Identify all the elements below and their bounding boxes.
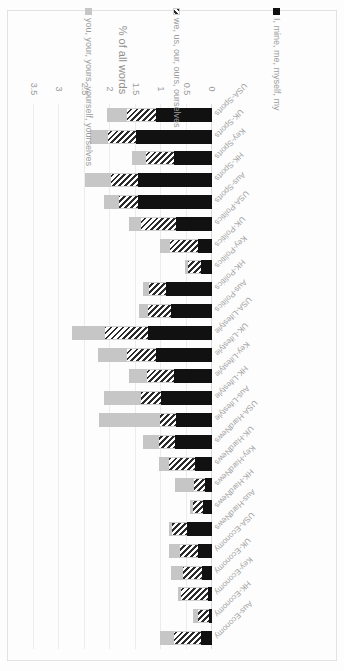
bar-row (34, 588, 212, 602)
bar-segment (174, 370, 212, 384)
bar-segment (143, 435, 158, 449)
bar-segment (111, 173, 138, 187)
value-axis-title: % of all words (117, 20, 129, 100)
bar-segment (132, 152, 146, 166)
bar-segment (104, 391, 141, 405)
bar-segment (174, 631, 200, 645)
bar-row (34, 152, 212, 166)
bar-segment (159, 457, 169, 471)
bar-segment (147, 370, 173, 384)
axis-tick-label: 2 (105, 79, 115, 99)
bar-segment (148, 304, 171, 318)
axis-tick-label: 2.5 (80, 79, 90, 99)
bar-row (34, 261, 212, 275)
bar-segment (176, 413, 212, 427)
bar-row (34, 108, 212, 122)
bar-row (34, 370, 212, 384)
bar-segment (127, 108, 156, 122)
bar-segment (160, 239, 170, 253)
bar-segment (119, 195, 138, 209)
bar-segment (178, 588, 181, 602)
bar-segment (138, 173, 212, 187)
legend-swatch-icon (85, 8, 92, 15)
bar-segment (175, 435, 212, 449)
bar-segment (193, 609, 198, 623)
chart-figure: 00.511.522.533.5 % of all words Aus-Econ… (0, 0, 344, 671)
bar-segment (195, 457, 212, 471)
bar-segment (174, 152, 212, 166)
bar-segment (141, 217, 177, 231)
bar-segment (170, 239, 198, 253)
bar-segment (190, 500, 193, 514)
bar-row (34, 173, 212, 187)
bar-row (34, 609, 212, 623)
bar-row (34, 282, 212, 296)
bar-segment (176, 217, 212, 231)
bar-segment (156, 108, 212, 122)
bar-segment (202, 566, 212, 580)
bar-segment (160, 413, 177, 427)
bar-segment (146, 152, 174, 166)
bar-segment (161, 391, 212, 405)
bar-segment (203, 500, 212, 514)
bar-segment (129, 217, 141, 231)
bar-segment (98, 348, 127, 362)
bar-segment (169, 457, 195, 471)
bar-segment (188, 261, 201, 275)
plot-area (34, 104, 212, 649)
bar-row (34, 435, 212, 449)
bar-segment (156, 348, 212, 362)
bar-segment (194, 479, 205, 493)
bar-row (34, 566, 212, 580)
bar-segment (198, 609, 209, 623)
bar-segment (108, 130, 136, 144)
bar-segment (141, 391, 161, 405)
bar-segment (85, 173, 111, 187)
bar-segment (127, 348, 156, 362)
legend-item: I, mine, me, myself, my (272, 8, 282, 111)
bar-segment (148, 326, 212, 340)
bar-segment (201, 631, 212, 645)
bar-row (34, 391, 212, 405)
legend-swatch-icon (273, 8, 280, 15)
bar-segment (129, 370, 148, 384)
axis-tick-label: 3 (54, 79, 64, 99)
bar-segment (187, 522, 212, 536)
bar-segment (160, 631, 174, 645)
bar-row (34, 326, 212, 340)
bar-segment (209, 609, 212, 623)
bar-segment (180, 544, 198, 558)
bar-row (34, 522, 212, 536)
axis-tick-label: 0.5 (182, 79, 192, 99)
chart-canvas: 00.511.522.533.5 % of all words Aus-Econ… (0, 0, 344, 671)
bar-row (34, 348, 212, 362)
bar-row (34, 239, 212, 253)
bar-segment (143, 282, 149, 296)
axis-tick-label: 1.5 (131, 79, 141, 99)
bar-segment (175, 479, 194, 493)
bar-row (34, 413, 212, 427)
bar-segment (107, 108, 127, 122)
bar-segment (198, 239, 212, 253)
bar-row (34, 500, 212, 514)
bar-segment (166, 282, 212, 296)
bar-segment (182, 588, 209, 602)
bar-segment (159, 435, 176, 449)
bar-segment (104, 195, 119, 209)
bar-segment (169, 544, 180, 558)
bar-segment (172, 522, 186, 536)
bar-row (34, 457, 212, 471)
bar-segment (208, 588, 212, 602)
bar-segment (90, 130, 108, 144)
bar-segment (201, 261, 212, 275)
bar-segment (105, 326, 148, 340)
bar-row (34, 479, 212, 493)
bar-segment (183, 566, 202, 580)
bar-segment (136, 130, 212, 144)
bar-row (34, 631, 212, 645)
bar-segment (99, 413, 160, 427)
bar-segment (185, 261, 189, 275)
bar-row (34, 130, 212, 144)
bar-row (34, 544, 212, 558)
bar-segment (149, 282, 166, 296)
